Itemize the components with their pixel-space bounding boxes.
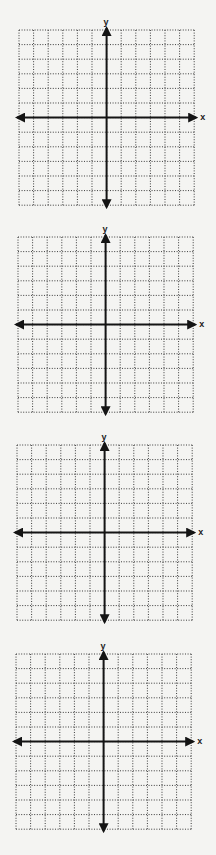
x-axis-label: x xyxy=(199,320,204,329)
dotted-grid xyxy=(18,237,201,420)
y-axis-label: y xyxy=(102,433,107,442)
x-axis-label: x xyxy=(197,737,202,746)
x-axis-label: x xyxy=(198,528,203,537)
y-axis-label: y xyxy=(101,642,106,651)
y-axis-label: y xyxy=(104,18,109,27)
coordinate-plane-1: y x xyxy=(19,30,202,213)
y-axis-label: y xyxy=(103,225,108,234)
dotted-grid xyxy=(19,30,202,213)
dotted-grid xyxy=(17,445,200,628)
coordinate-plane-2: y x xyxy=(18,237,201,420)
coordinate-plane-4: y x xyxy=(16,654,199,837)
x-axis-label: x xyxy=(200,113,205,122)
dotted-grid xyxy=(16,654,199,837)
coordinate-plane-3: y x xyxy=(17,445,200,628)
